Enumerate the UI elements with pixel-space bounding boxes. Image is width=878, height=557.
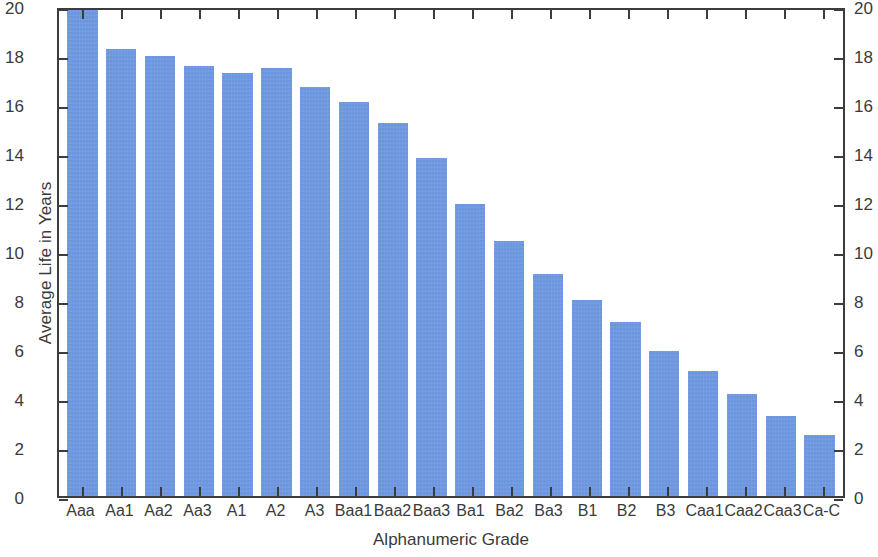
x-axis-tick-label: B2: [607, 503, 646, 519]
y-axis-tick-label: 18: [0, 49, 24, 66]
y-axis-tick-label: 10: [0, 245, 24, 262]
y-tick-left: [59, 9, 68, 11]
x-tick: [472, 487, 474, 496]
x-tick: [628, 487, 630, 496]
bar[interactable]: [106, 49, 136, 496]
x-tick: [667, 487, 669, 496]
y-axis-tick-label: 0: [0, 490, 24, 507]
bars-layer: [59, 10, 843, 496]
bar-slot: [141, 10, 180, 496]
x-tick: [706, 487, 708, 496]
x-tick-top: [550, 10, 552, 19]
bar[interactable]: [300, 87, 330, 496]
x-tick: [433, 487, 435, 496]
y-axis-tick-label: 16: [0, 98, 24, 115]
bar-slot: [373, 10, 412, 496]
x-tick-top: [589, 10, 591, 19]
x-axis-tick-label: Ba3: [529, 503, 568, 519]
bar[interactable]: [766, 416, 796, 496]
x-tick-top: [160, 10, 162, 19]
bar[interactable]: [688, 371, 718, 496]
y-tick-left: [59, 499, 68, 501]
y-axis-tick-label: 12: [0, 196, 24, 213]
x-tick-top: [667, 10, 669, 19]
x-tick-top: [121, 10, 123, 19]
bar[interactable]: [339, 102, 369, 496]
bar[interactable]: [610, 322, 640, 496]
x-tick-top: [472, 10, 474, 19]
bar[interactable]: [184, 66, 214, 496]
y-axis-tick-label-right: 4: [854, 392, 878, 409]
bar-slot: [606, 10, 645, 496]
bar-chart: Average Life in Years 02468101214161820 …: [0, 0, 878, 557]
x-axis-title: Alphanumeric Grade: [57, 530, 845, 550]
y-axis-tick-label-right: 0: [854, 490, 878, 507]
y-axis-tick-label-right: 14: [854, 147, 878, 164]
y-axis-title: Average Life in Years: [36, 113, 56, 413]
y-tick-right: [834, 58, 843, 60]
y-axis-tick-label-right: 18: [854, 49, 878, 66]
x-axis-tick-label: Aaa: [61, 503, 100, 519]
x-tick-top: [823, 10, 825, 19]
x-tick: [355, 487, 357, 496]
bar-slot: [451, 10, 490, 496]
y-axis-tick-label-right: 16: [854, 98, 878, 115]
bar[interactable]: [494, 241, 524, 496]
x-tick-top: [82, 10, 84, 19]
bar[interactable]: [649, 351, 679, 496]
y-tick-left: [59, 352, 68, 354]
x-tick-top: [277, 10, 279, 19]
x-axis-tick-label: Aa1: [100, 503, 139, 519]
bar-slot: [218, 10, 257, 496]
x-axis-tick-label: B3: [646, 503, 685, 519]
bar[interactable]: [145, 56, 175, 496]
y-tick-right: [834, 352, 843, 354]
plot-area: [57, 8, 845, 498]
y-axis-tick-label: 8: [0, 294, 24, 311]
y-tick-right: [834, 499, 843, 501]
x-axis-tick-label: Ca-C: [802, 503, 841, 519]
bar-slot: [529, 10, 568, 496]
x-axis-tick-label: Aa3: [178, 503, 217, 519]
y-tick-left: [59, 401, 68, 403]
y-axis-tick-label-right: 10: [854, 245, 878, 262]
bar[interactable]: [572, 300, 602, 496]
bar[interactable]: [533, 274, 563, 496]
y-tick-right: [834, 401, 843, 403]
y-tick-left: [59, 254, 68, 256]
x-axis-tick-label: A3: [295, 503, 334, 519]
bar[interactable]: [416, 158, 446, 496]
x-tick-top: [706, 10, 708, 19]
bar[interactable]: [67, 10, 97, 496]
x-axis-tick-label: Caa2: [724, 503, 763, 519]
x-tick-top: [199, 10, 201, 19]
x-tick: [745, 487, 747, 496]
bar[interactable]: [261, 68, 291, 496]
bar[interactable]: [804, 435, 834, 496]
x-tick: [82, 487, 84, 496]
bar-slot: [257, 10, 296, 496]
bar[interactable]: [455, 204, 485, 496]
y-tick-right: [834, 254, 843, 256]
y-axis-tick-label: 2: [0, 441, 24, 458]
y-tick-left: [59, 58, 68, 60]
x-tick: [199, 487, 201, 496]
x-tick: [121, 487, 123, 496]
bar-slot: [800, 10, 839, 496]
y-axis-tick-label: 14: [0, 147, 24, 164]
y-tick-left: [59, 450, 68, 452]
bar-slot: [63, 10, 102, 496]
x-axis-tick-label: Ba2: [490, 503, 529, 519]
bar-slot: [723, 10, 762, 496]
bar[interactable]: [378, 123, 408, 496]
x-tick: [160, 487, 162, 496]
y-tick-left: [59, 303, 68, 305]
y-tick-left: [59, 205, 68, 207]
bar[interactable]: [222, 73, 252, 496]
x-tick: [238, 487, 240, 496]
bar[interactable]: [727, 394, 757, 496]
x-tick-top: [238, 10, 240, 19]
bar-slot: [335, 10, 374, 496]
y-axis-tick-label-right: 12: [854, 196, 878, 213]
x-tick-top: [784, 10, 786, 19]
